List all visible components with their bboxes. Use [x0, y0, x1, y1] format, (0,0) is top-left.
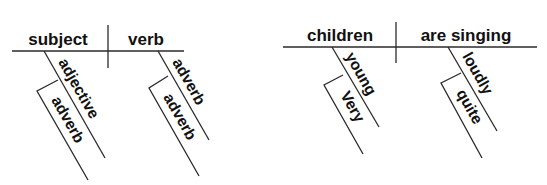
subject-label: subject	[28, 30, 88, 49]
sentence-diagrams: subject verb adjective adverb adverb adv…	[0, 0, 547, 185]
template-diagram: subject verb adjective adverb adverb adv…	[12, 25, 209, 180]
example-diagram: children are singing young Very loudly q…	[283, 22, 537, 158]
subject-label: children	[307, 26, 373, 45]
verb-label: verb	[128, 30, 164, 49]
verb-label: are singing	[421, 26, 512, 45]
